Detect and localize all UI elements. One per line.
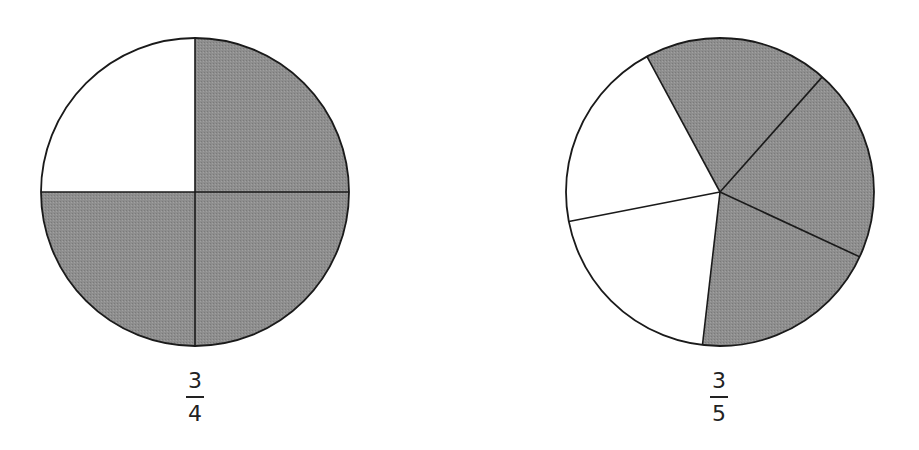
numerator: 3 xyxy=(699,368,739,394)
shaded-sector xyxy=(41,192,195,346)
denominator: 5 xyxy=(699,401,739,427)
fraction-label-three-quarters: 3 4 xyxy=(175,368,215,427)
denominator: 4 xyxy=(175,401,215,427)
fraction-bar xyxy=(186,396,204,398)
pie-three-fifths xyxy=(566,38,874,346)
fraction-diagrams xyxy=(0,0,919,450)
numerator: 3 xyxy=(175,368,215,394)
shaded-sector xyxy=(195,192,349,346)
shaded-sector xyxy=(195,38,349,192)
unshaded-sector xyxy=(41,38,195,192)
fraction-label-three-fifths: 3 5 xyxy=(699,368,739,427)
pie-three-quarters xyxy=(41,38,349,346)
fraction-bar xyxy=(710,396,728,398)
